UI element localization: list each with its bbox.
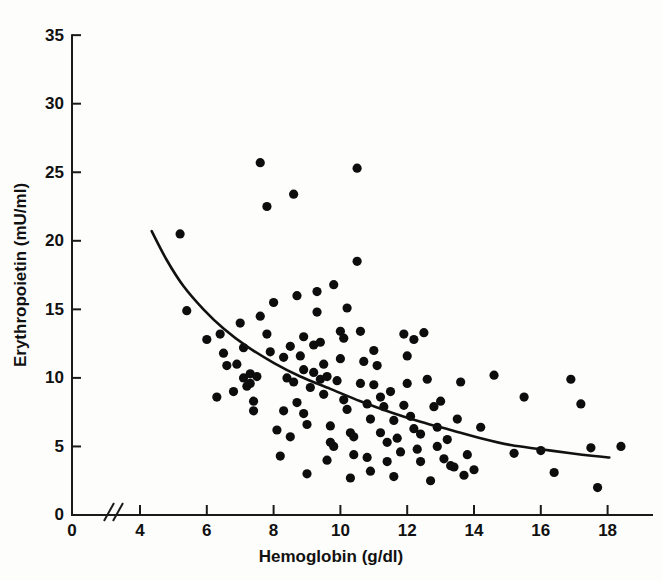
data-point <box>292 291 301 300</box>
data-point <box>319 390 328 399</box>
data-point <box>369 346 378 355</box>
data-point <box>550 468 559 477</box>
data-point <box>456 377 465 386</box>
data-point <box>312 307 321 316</box>
data-point <box>202 335 211 344</box>
data-point <box>319 360 328 369</box>
axis-break-slash <box>104 503 114 521</box>
y-axis-tick-label: 15 <box>45 300 64 319</box>
data-point <box>393 434 402 443</box>
data-point <box>353 257 362 266</box>
data-point <box>423 375 432 384</box>
data-point <box>329 442 338 451</box>
y-axis-tick-label: 0 <box>55 505 64 524</box>
data-point <box>396 447 405 456</box>
data-point <box>453 414 462 423</box>
data-point <box>376 392 385 401</box>
chart-canvas: 05101520253035 04681012141618 Hemoglobin… <box>0 0 662 580</box>
data-point <box>222 361 231 370</box>
data-point <box>256 158 265 167</box>
data-point <box>349 450 358 459</box>
axis-break-icon <box>104 503 123 521</box>
data-point <box>359 357 368 366</box>
data-point <box>296 351 305 360</box>
data-point <box>416 457 425 466</box>
data-point <box>302 420 311 429</box>
data-point <box>349 432 358 441</box>
data-point <box>409 335 418 344</box>
data-point <box>366 414 375 423</box>
data-point <box>389 416 398 425</box>
x-axis-tick-label: 8 <box>269 521 278 540</box>
axes <box>72 35 652 521</box>
data-point <box>236 318 245 327</box>
data-point <box>249 406 258 415</box>
x-axis-ticks <box>140 505 608 515</box>
data-point <box>386 387 395 396</box>
data-point <box>286 432 295 441</box>
data-point <box>232 360 241 369</box>
data-point <box>389 472 398 481</box>
data-point <box>383 457 392 466</box>
data-point <box>433 442 442 451</box>
data-point <box>459 471 468 480</box>
y-axis-tick-label: 30 <box>45 94 64 113</box>
data-point <box>576 399 585 408</box>
y-axis-tick-label: 25 <box>45 163 64 182</box>
data-point <box>266 347 275 356</box>
data-point <box>416 430 425 439</box>
data-point <box>342 405 351 414</box>
data-point <box>262 202 271 211</box>
axis-break-slash <box>113 503 123 521</box>
data-point <box>439 454 448 463</box>
y-axis-tick-label: 5 <box>55 437 64 456</box>
data-point <box>289 377 298 386</box>
data-point <box>593 483 602 492</box>
x-axis-tick-label: 12 <box>398 521 417 540</box>
data-point <box>366 467 375 476</box>
scatter-points <box>175 158 625 492</box>
data-point <box>292 398 301 407</box>
data-point <box>566 375 575 384</box>
data-point <box>463 450 472 459</box>
data-point <box>312 287 321 296</box>
data-point <box>342 303 351 312</box>
data-point <box>356 379 365 388</box>
data-point <box>306 383 315 392</box>
data-point <box>373 361 382 370</box>
y-axis-ticks <box>72 35 81 446</box>
data-point <box>520 392 529 401</box>
y-axis-tick-labels: 05101520253035 <box>45 26 64 525</box>
data-point <box>302 469 311 478</box>
data-point <box>586 443 595 452</box>
data-point <box>509 449 518 458</box>
data-point <box>616 442 625 451</box>
y-axis-tick-label: 35 <box>45 26 64 45</box>
data-point <box>443 435 452 444</box>
data-point <box>272 425 281 434</box>
data-point <box>376 428 385 437</box>
x-axis-tick-label: 4 <box>135 521 145 540</box>
data-point <box>216 329 225 338</box>
data-point <box>399 401 408 410</box>
data-point <box>413 445 422 454</box>
data-point <box>279 353 288 362</box>
data-point <box>322 372 331 381</box>
data-point <box>403 351 412 360</box>
data-point <box>219 349 228 358</box>
x-axis-tick-label: 16 <box>531 521 550 540</box>
data-point <box>326 421 335 430</box>
data-point <box>426 476 435 485</box>
data-point <box>346 473 355 482</box>
data-point <box>262 329 271 338</box>
x-axis-title: Hemoglobin (g/dl) <box>259 547 403 566</box>
data-point <box>332 376 341 385</box>
data-point <box>339 334 348 343</box>
x-axis-tick-label: 14 <box>465 521 484 540</box>
data-point <box>363 453 372 462</box>
data-point <box>316 338 325 347</box>
data-point <box>449 462 458 471</box>
data-point <box>249 397 258 406</box>
data-point <box>256 312 265 321</box>
data-point <box>212 392 221 401</box>
